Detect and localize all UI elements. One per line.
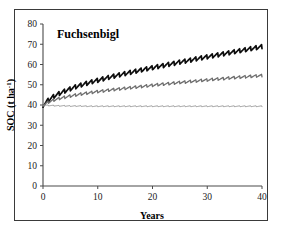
- y-tick-label: 40: [28, 100, 38, 110]
- y-tick-label: 10: [28, 161, 38, 171]
- svg-text:SOC (t ha-1): SOC (t ha-1): [5, 79, 17, 131]
- x-tick-label: 30: [203, 192, 213, 202]
- y-tick-label: 80: [28, 19, 38, 29]
- data-series-group: [43, 45, 262, 108]
- series-line-1: [43, 45, 262, 108]
- y-tick-label: 70: [28, 40, 38, 50]
- series-line-2: [43, 74, 262, 106]
- series-line-3: [43, 105, 262, 107]
- y-axis-title-main: SOC (t ha: [5, 88, 17, 131]
- y-tick-label: 60: [28, 60, 38, 70]
- y-tick-label: 50: [28, 80, 38, 90]
- y-axis-title-tail: ): [5, 79, 17, 82]
- x-tick-label: 0: [41, 192, 46, 202]
- x-tick-label: 20: [148, 192, 158, 202]
- x-tick-label: 40: [257, 192, 267, 202]
- chart-canvas: 01020304050607080 010203040 Fuchsenbigl …: [0, 0, 282, 230]
- y-tick-label: 30: [28, 121, 38, 131]
- y-axis-title: SOC (t ha-1): [5, 79, 17, 131]
- x-tick-label: 10: [93, 192, 103, 202]
- plot-title: Fuchsenbigl: [57, 27, 120, 41]
- y-tick-label: 0: [32, 181, 37, 191]
- x-axis-tick-labels: 010203040: [41, 192, 267, 202]
- y-tick-label: 20: [28, 141, 38, 151]
- figure-panel: 01020304050607080 010203040 Fuchsenbigl …: [0, 0, 282, 230]
- x-axis-title: Years: [140, 210, 164, 221]
- y-axis-tick-labels: 01020304050607080: [28, 19, 38, 191]
